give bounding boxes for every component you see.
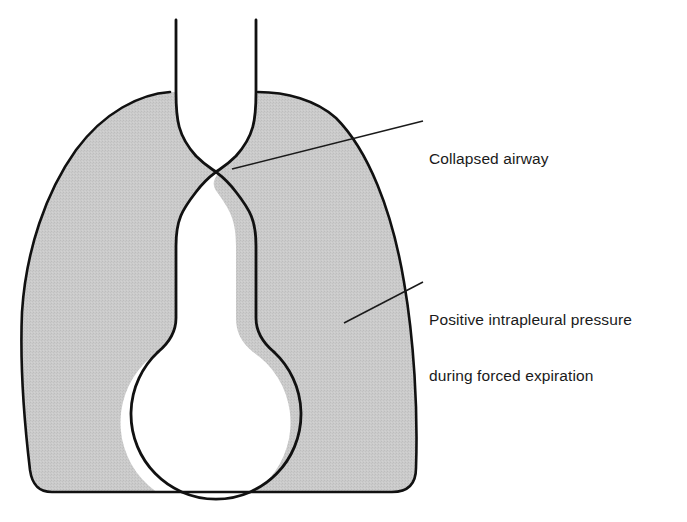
intrapleural-pressure-label-line-2: during forced expiration [429, 367, 632, 386]
intrapleural-pressure-label: Positive intrapleural pressure during fo… [429, 274, 632, 422]
collapsed-airway-label-line-1: Collapsed airway [429, 150, 549, 169]
pleural-fill [21, 92, 416, 492]
pleural-space-region [21, 92, 416, 492]
diagram-canvas [0, 0, 687, 522]
lung-diagram-figure: Collapsed airway Positive intrapleural p… [0, 0, 687, 522]
intrapleural-pressure-label-line-1: Positive intrapleural pressure [429, 311, 632, 330]
collapsed-airway-label: Collapsed airway [429, 113, 549, 206]
